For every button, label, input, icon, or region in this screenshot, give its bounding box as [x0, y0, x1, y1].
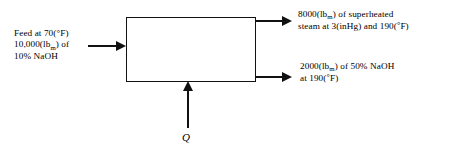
vapor-conditions-suffix: F) — [400, 21, 408, 31]
vapor-stream-arrowhead-icon — [282, 16, 292, 26]
feed-stream-line — [88, 45, 118, 47]
product-mass-suffix: ) of 50% NaOH — [335, 61, 395, 71]
feed-stream-arrowhead-icon — [116, 41, 126, 51]
vapor-stream-label: 8000(lbm) of superheated steam at 3(inHg… — [298, 9, 409, 32]
feed-mass-subscript: m — [50, 44, 55, 51]
feed-label-line-1: Feed at 70(°F) — [14, 28, 69, 39]
product-mass-prefix: 2000(lb — [300, 61, 329, 71]
heat-input-line — [187, 90, 189, 128]
vapor-mass-suffix: ) of superheated — [333, 9, 394, 19]
vapor-mass-prefix: 8000(lb — [298, 9, 327, 19]
product-label-line-1: 2000(lbm) of 50% NaOH — [300, 61, 394, 72]
product-temp-suffix: F) — [330, 73, 338, 83]
heat-input-label: Q — [182, 131, 190, 143]
feed-label-line-3: 10% NaOH — [14, 51, 69, 62]
product-mass-subscript: m — [329, 65, 334, 72]
feed-mass-prefix: 10,000(lb — [14, 39, 50, 49]
product-stream-line — [256, 76, 284, 78]
vapor-conditions-prefix: steam at 3(inHg) and 190( — [298, 21, 397, 31]
evaporator-unit-box — [126, 17, 256, 82]
product-temp-prefix: at 190( — [300, 73, 326, 83]
vapor-label-line-1: 8000(lbm) of superheated — [298, 9, 409, 20]
product-stream-arrowhead-icon — [282, 72, 292, 82]
product-label-line-2: at 190(°F) — [300, 72, 394, 84]
vapor-mass-subscript: m — [327, 13, 332, 20]
process-flow-diagram: Feed at 70(°F) 10,000(lbm) of 10% NaOH 8… — [0, 0, 451, 154]
heat-input-arrowhead-icon — [183, 81, 193, 91]
vapor-label-line-2: steam at 3(inHg) and 190(°F) — [298, 20, 409, 32]
vapor-stream-line — [256, 20, 284, 22]
product-stream-label: 2000(lbm) of 50% NaOH at 190(°F) — [300, 61, 394, 84]
feed-label-line-2: 10,000(lbm) of — [14, 39, 69, 50]
feed-mass-suffix: ) of — [56, 39, 69, 49]
feed-stream-label: Feed at 70(°F) 10,000(lbm) of 10% NaOH — [14, 28, 69, 62]
